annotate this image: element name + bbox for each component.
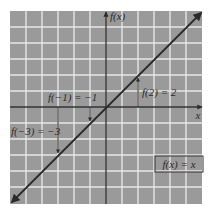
x-axis-label: x xyxy=(195,109,201,121)
annotation-fm1: f(−1) = −1 xyxy=(48,91,97,104)
y-axis-label: f(x) xyxy=(110,10,126,23)
annotation-f2: f(2) = 2 xyxy=(142,86,177,99)
legend-label: f(x) = x xyxy=(162,158,195,171)
annotation-fm3: f(−3) = −3 xyxy=(11,125,61,138)
function-graph: f(x) x f(2) = 2 f(−1) = −1 f(−3) = −3 f(… xyxy=(0,0,214,216)
